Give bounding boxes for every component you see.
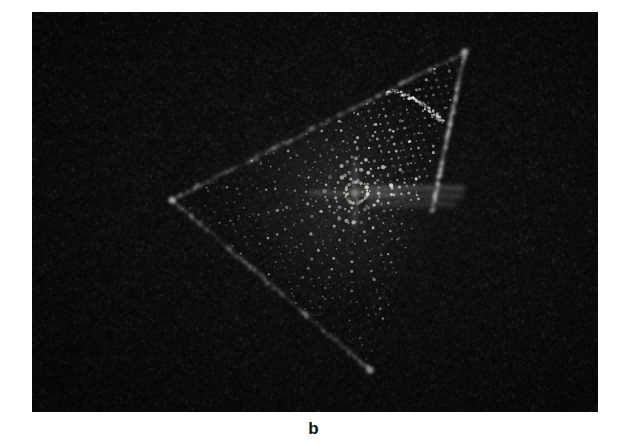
diffraction-plate (32, 12, 598, 412)
film-grain-overlay (32, 12, 598, 412)
panel-label: b (0, 419, 627, 439)
figure-panel: b (0, 0, 627, 447)
